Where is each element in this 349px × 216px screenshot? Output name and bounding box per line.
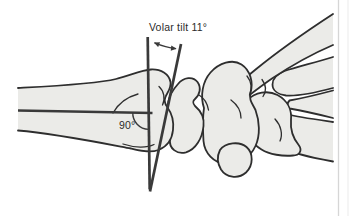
pisiform-bone bbox=[218, 143, 252, 176]
wrist-lateral-diagram: Volar tilt 11° 90° bbox=[0, 0, 349, 216]
hand-bones bbox=[18, 14, 333, 177]
volar-tilt-angle-arrow bbox=[155, 43, 177, 49]
perpendicular-reference-line bbox=[148, 37, 150, 190]
lunate-bone bbox=[168, 78, 204, 153]
right-angle-label: 90° bbox=[119, 120, 135, 131]
volar-tilt-label: Volar tilt 11° bbox=[149, 22, 207, 33]
